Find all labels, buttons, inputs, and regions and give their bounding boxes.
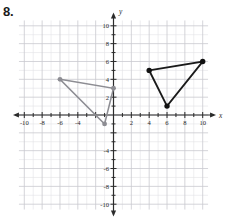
y-tick-label: -4: [104, 147, 110, 154]
vertex-point: [111, 86, 116, 91]
y-tick-label: -8: [104, 183, 110, 190]
y-axis-arrow-up: [111, 12, 116, 18]
y-tick-label: -6: [104, 165, 110, 172]
x-tick-label: 2: [130, 119, 133, 126]
y-axis-arrow-down: [111, 211, 116, 217]
x-axis-label: x: [218, 111, 223, 120]
vertex-point: [146, 68, 151, 73]
y-tick-label: 2: [106, 94, 109, 101]
y-tick-label: -10: [100, 201, 109, 208]
x-tick-label: 6: [165, 119, 169, 126]
vertex-point: [102, 122, 107, 127]
x-tick-label: -10: [20, 119, 29, 126]
x-tick-label: -4: [75, 119, 81, 126]
vertex-point: [200, 59, 205, 64]
x-tick-label: 8: [183, 119, 187, 126]
coordinate-plane-svg: -10-8-6-4246810 -10-8-6-4246810 xy: [0, 0, 227, 220]
x-tick-label: -6: [57, 119, 63, 126]
vertex-point: [164, 103, 169, 108]
vertex-point: [58, 77, 63, 82]
y-axis-label: y: [118, 7, 123, 16]
x-tick-label: 10: [199, 119, 206, 126]
y-tick-label: 10: [102, 22, 109, 29]
x-tick-label: 4: [148, 119, 152, 126]
x-tick-label: -8: [39, 119, 45, 126]
x-axis-arrow-right: [210, 112, 216, 117]
worksheet-figure: 8. -10-8-6-4246810 -10-8-6-4246810 xy: [0, 0, 227, 220]
coordinate-graph: -10-8-6-4246810 -10-8-6-4246810 xy: [0, 0, 227, 220]
x-axis-arrow-left: [13, 112, 19, 117]
